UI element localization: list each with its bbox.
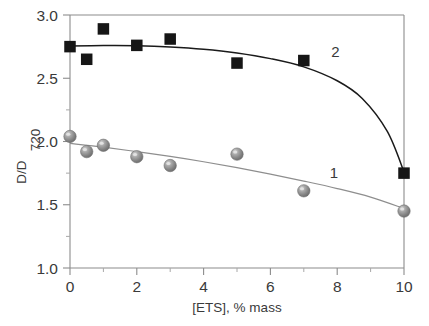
marker-sphere-series-1 bbox=[81, 145, 93, 157]
x-tick-label: 4 bbox=[199, 278, 208, 295]
x-tick-label: 10 bbox=[395, 278, 413, 295]
marker-square-series-2 bbox=[131, 40, 143, 52]
sphere-highlight bbox=[300, 187, 304, 190]
marker-square-series-2 bbox=[164, 33, 176, 45]
marker-square-series-2 bbox=[298, 55, 310, 67]
marker-sphere-series-1 bbox=[97, 139, 109, 151]
y-tick-label: 1.5 bbox=[36, 196, 58, 213]
curve-label-2: 2 bbox=[331, 43, 339, 60]
marker-square-series-2 bbox=[64, 41, 76, 53]
marker-sphere-series-1 bbox=[298, 185, 310, 197]
sphere-highlight bbox=[166, 162, 170, 165]
y-axis-title: D/D 720 bbox=[14, 129, 43, 184]
curve-label-1: 1 bbox=[330, 164, 338, 181]
sphere-highlight bbox=[400, 207, 404, 210]
sphere-highlight bbox=[133, 153, 137, 156]
sphere-highlight bbox=[100, 142, 104, 145]
sphere-highlight bbox=[66, 133, 70, 136]
y-tick-label: 3.0 bbox=[36, 7, 58, 24]
sphere-body bbox=[231, 148, 243, 160]
svg-text:720: 720 bbox=[28, 129, 43, 152]
y-tick-label: 2.5 bbox=[36, 70, 58, 87]
y-tick-label: 1.0 bbox=[36, 260, 58, 277]
x-tick-label: 0 bbox=[66, 278, 75, 295]
sphere-body bbox=[131, 150, 143, 162]
fit-curves bbox=[70, 46, 404, 209]
sphere-body bbox=[81, 145, 93, 157]
sphere-highlight bbox=[233, 151, 237, 154]
x-tick-label: 6 bbox=[266, 278, 275, 295]
sphere-highlight bbox=[83, 148, 87, 151]
marker-sphere-series-1 bbox=[131, 150, 143, 162]
x-tick-label: 2 bbox=[132, 278, 141, 295]
marker-sphere-series-1 bbox=[398, 205, 410, 217]
curve-labels: 12 bbox=[330, 43, 340, 181]
scatter-plot-svg: 12 1.01.52.02.53.00246810 D/D 720 [ETS],… bbox=[0, 0, 429, 326]
marker-sphere-series-1 bbox=[231, 148, 243, 160]
marker-sphere-series-1 bbox=[64, 130, 76, 142]
axes bbox=[63, 15, 404, 275]
x-tick-label: 8 bbox=[333, 278, 342, 295]
chart-figure: 12 1.01.52.02.53.00246810 D/D 720 [ETS],… bbox=[0, 0, 429, 326]
marker-square-series-2 bbox=[98, 23, 110, 35]
sphere-body bbox=[164, 159, 176, 171]
marker-square-series-2 bbox=[231, 57, 243, 69]
svg-text:D/D: D/D bbox=[14, 160, 29, 184]
x-axis-title: [ETS], % mass bbox=[192, 300, 282, 315]
sphere-body bbox=[298, 185, 310, 197]
marker-square-series-2 bbox=[398, 167, 410, 179]
marker-sphere-series-1 bbox=[164, 159, 176, 171]
sphere-body bbox=[64, 130, 76, 142]
sphere-body bbox=[398, 205, 410, 217]
sphere-body bbox=[97, 139, 109, 151]
marker-square-series-2 bbox=[81, 54, 93, 66]
